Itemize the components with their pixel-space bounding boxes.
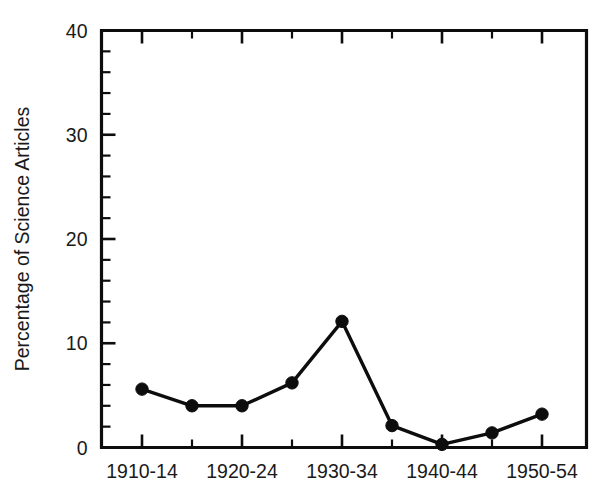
data-point	[536, 408, 548, 420]
x-axis-tick-labels: 1910-141920-241930-341940-441950-54	[106, 460, 578, 482]
data-point	[286, 377, 298, 389]
y-tick-label: 10	[66, 332, 88, 354]
x-tick-label: 1910-14	[106, 460, 178, 482]
data-series-markers	[136, 315, 548, 450]
data-point	[386, 419, 398, 431]
data-point	[136, 383, 148, 395]
x-axis-minor-ticks	[142, 31, 542, 448]
data-point	[486, 427, 498, 439]
x-tick-label: 1940-44	[406, 460, 478, 482]
data-point	[236, 400, 248, 412]
y-axis-major-ticks	[102, 135, 116, 344]
data-point	[336, 315, 348, 327]
x-tick-label: 1920-24	[206, 460, 278, 482]
y-tick-label: 40	[66, 20, 88, 42]
y-tick-label: 20	[66, 228, 88, 250]
x-tick-label: 1930-34	[306, 460, 378, 482]
y-tick-label: 0	[77, 437, 88, 459]
line-chart: 010203040 1910-141920-241930-341940-4419…	[0, 0, 614, 504]
y-tick-label: 30	[66, 124, 88, 146]
y-axis-tick-labels: 010203040	[66, 20, 88, 459]
y-axis-title: Percentage of Science Articles	[11, 107, 33, 372]
data-series-line	[142, 321, 542, 444]
data-point	[186, 400, 198, 412]
chart-figure: 010203040 1910-141920-241930-341940-4419…	[0, 0, 614, 504]
plot-frame	[102, 31, 587, 448]
data-point	[436, 438, 448, 450]
x-tick-label: 1950-54	[506, 460, 578, 482]
